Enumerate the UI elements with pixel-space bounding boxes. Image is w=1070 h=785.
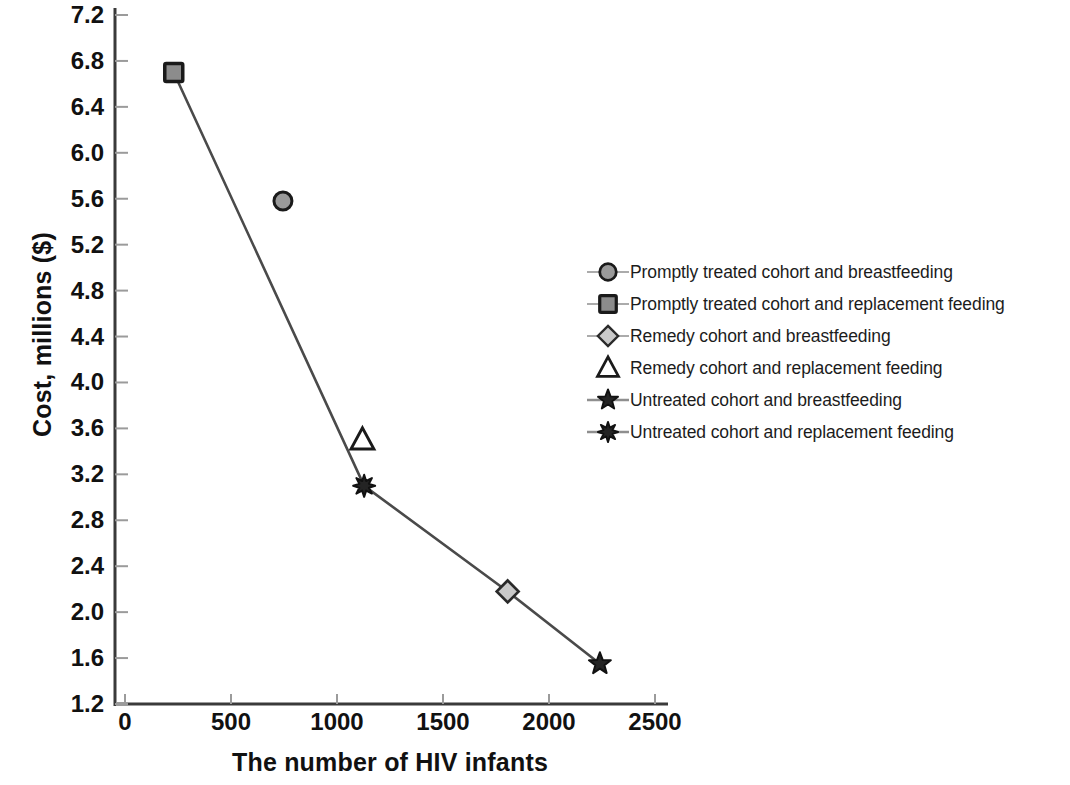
chart-root: Cost, millions ($) The number of HIV inf… [0, 0, 1070, 785]
marker-circle [274, 192, 292, 210]
marker-starburst [353, 475, 375, 497]
legend-item[interactable]: Promptly treated cohort and replacement … [586, 288, 1005, 320]
marker-starburst [598, 422, 618, 442]
legend-marker-star-icon [586, 385, 630, 415]
legend-item[interactable]: Remedy cohort and breastfeeding [586, 320, 1005, 352]
legend-label: Remedy cohort and replacement feeding [630, 358, 942, 379]
legend-marker-square-icon [586, 289, 630, 319]
marker-star [598, 389, 618, 408]
marker-triangle [351, 428, 374, 449]
frontier-line [174, 72, 600, 663]
legend-label: Promptly treated cohort and breastfeedin… [630, 262, 953, 283]
marker-triangle [598, 357, 619, 376]
marker-diamond [497, 580, 519, 602]
marker-circle [600, 264, 617, 281]
legend-item[interactable]: Remedy cohort and replacement feeding [586, 352, 1005, 384]
legend-marker-starburst-icon [586, 417, 630, 447]
legend-marker-circle-icon [586, 257, 630, 287]
marker-square [165, 63, 183, 81]
legend-marker-diamond-icon [586, 321, 630, 351]
legend-label: Promptly treated cohort and replacement … [630, 294, 1005, 315]
legend-marker-triangle-icon [586, 353, 630, 383]
legend-item[interactable]: Promptly treated cohort and breastfeedin… [586, 256, 1005, 288]
chart-legend: Promptly treated cohort and breastfeedin… [586, 256, 1005, 448]
legend-item[interactable]: Untreated cohort and breastfeeding [586, 384, 1005, 416]
marker-diamond [598, 326, 618, 346]
legend-label: Remedy cohort and breastfeeding [630, 326, 891, 347]
marker-square [600, 296, 617, 313]
marker-star [589, 652, 611, 673]
legend-label: Untreated cohort and replacement feeding [630, 422, 954, 443]
legend-label: Untreated cohort and breastfeeding [630, 390, 902, 411]
legend-item[interactable]: Untreated cohort and replacement feeding [586, 416, 1005, 448]
